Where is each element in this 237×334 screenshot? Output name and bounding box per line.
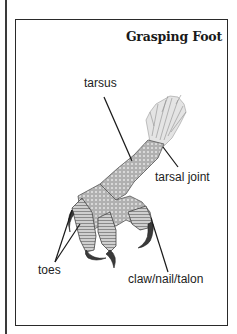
claw-leader-line (151, 218, 168, 272)
label-claw: claw/nail/talon (128, 273, 203, 285)
tarsal-joint-leader-line (163, 147, 178, 167)
label-tarsus: tarsus (84, 77, 117, 89)
toes-leader-line-1 (55, 210, 72, 262)
label-toes: toes (38, 264, 61, 276)
label-tarsal-joint: tarsal joint (155, 171, 210, 183)
feathers (146, 95, 186, 147)
tarsus-leader-line (104, 97, 132, 161)
toes-leader-line-2 (55, 224, 80, 262)
